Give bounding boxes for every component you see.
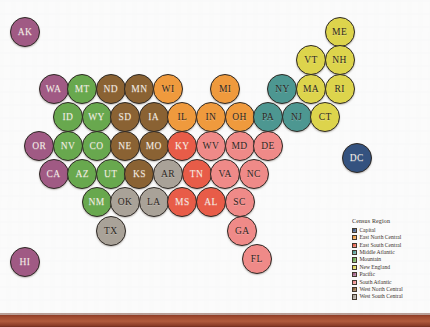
- state-bubble-mi[interactable]: MI: [210, 74, 240, 104]
- state-label: NV: [61, 141, 76, 151]
- state-bubble-hi[interactable]: HI: [10, 247, 40, 277]
- legend-entry: New England: [352, 264, 430, 271]
- state-bubble-mo[interactable]: MO: [139, 131, 169, 161]
- state-bubble-md[interactable]: MD: [225, 131, 255, 161]
- state-bubble-ar[interactable]: AR: [153, 159, 183, 189]
- state-bubble-sc[interactable]: SC: [225, 187, 255, 217]
- state-label: NJ: [291, 112, 302, 122]
- state-bubble-pa[interactable]: PA: [253, 102, 283, 132]
- legend-entry: West North Central: [352, 286, 430, 293]
- state-bubble-nh[interactable]: NH: [325, 45, 355, 75]
- state-label: FL: [251, 254, 263, 264]
- state-bubble-ga[interactable]: GA: [227, 216, 257, 246]
- state-bubble-nv[interactable]: NV: [53, 131, 83, 161]
- state-label: SC: [233, 197, 245, 207]
- state-bubble-al[interactable]: AL: [196, 187, 226, 217]
- state-label: ND: [104, 84, 119, 94]
- legend-label: East South Central: [359, 242, 401, 249]
- legend-entry: West South Central: [352, 293, 430, 300]
- state-bubble-de[interactable]: DE: [253, 131, 283, 161]
- state-label: VT: [304, 55, 317, 65]
- state-bubble-ne[interactable]: NE: [110, 131, 140, 161]
- state-bubble-sd[interactable]: SD: [110, 102, 140, 132]
- state-bubble-mt[interactable]: MT: [67, 74, 97, 104]
- state-bubble-or[interactable]: OR: [24, 131, 54, 161]
- legend-panel: Census Region CapitalEast North CentralE…: [352, 218, 430, 301]
- state-bubble-ks[interactable]: KS: [124, 159, 154, 189]
- state-bubble-az[interactable]: AZ: [67, 159, 97, 189]
- state-bubble-tn[interactable]: TN: [182, 159, 212, 189]
- state-bubble-wv[interactable]: WV: [196, 131, 226, 161]
- state-bubble-id[interactable]: ID: [53, 102, 83, 132]
- state-bubble-nj[interactable]: NJ: [282, 102, 312, 132]
- legend-label: Pacific: [359, 271, 375, 278]
- state-bubble-wa[interactable]: WA: [39, 74, 69, 104]
- state-bubble-va[interactable]: VA: [210, 159, 240, 189]
- legend-color-swatch: [352, 250, 357, 255]
- state-bubble-ma[interactable]: MA: [296, 74, 326, 104]
- state-label: TX: [104, 226, 117, 236]
- state-label: IA: [148, 112, 159, 122]
- state-label: AZ: [75, 169, 88, 179]
- state-bubble-mn[interactable]: MN: [124, 74, 154, 104]
- legend-color-swatch: [352, 294, 357, 299]
- legend-label: West North Central: [359, 286, 402, 293]
- state-bubble-ky[interactable]: KY: [167, 131, 197, 161]
- state-label: TN: [190, 169, 203, 179]
- state-label: HI: [20, 257, 31, 267]
- state-bubble-vt[interactable]: VT: [296, 45, 326, 75]
- state-bubble-wy[interactable]: WY: [82, 102, 112, 132]
- state-label: AK: [18, 27, 33, 37]
- state-label: MI: [219, 84, 231, 94]
- state-bubble-co[interactable]: CO: [82, 131, 112, 161]
- state-label: AL: [204, 197, 217, 207]
- legend-entry: East South Central: [352, 242, 430, 249]
- state-bubble-ct[interactable]: CT: [310, 102, 340, 132]
- state-bubble-ia[interactable]: IA: [139, 102, 169, 132]
- state-bubble-ok[interactable]: OK: [110, 187, 140, 217]
- legend-label: Capital: [359, 227, 375, 234]
- state-bubble-ny[interactable]: NY: [267, 74, 297, 104]
- state-label: NM: [88, 197, 104, 207]
- legend-color-swatch: [352, 243, 357, 248]
- state-bubble-ak[interactable]: AK: [10, 17, 40, 47]
- legend-label: South Atlantic: [359, 279, 391, 286]
- state-bubble-oh[interactable]: OH: [225, 102, 255, 132]
- state-label: WA: [46, 84, 62, 94]
- state-bubble-in[interactable]: IN: [196, 102, 226, 132]
- state-bubble-tx[interactable]: TX: [96, 216, 126, 246]
- state-label: VA: [219, 169, 232, 179]
- state-label: ID: [62, 112, 73, 122]
- legend-color-swatch: [352, 265, 357, 270]
- state-bubble-me[interactable]: ME: [325, 17, 355, 47]
- state-bubble-ut[interactable]: UT: [96, 159, 126, 189]
- state-label: CA: [47, 169, 61, 179]
- state-label: NH: [332, 55, 347, 65]
- state-label: IL: [177, 112, 187, 122]
- state-label: WI: [162, 84, 175, 94]
- state-bubble-ms[interactable]: MS: [167, 187, 197, 217]
- state-bubble-nc[interactable]: NC: [239, 159, 269, 189]
- state-bubble-la[interactable]: LA: [139, 187, 169, 217]
- state-bubble-fl[interactable]: FL: [242, 244, 272, 274]
- state-bubble-nd[interactable]: ND: [96, 74, 126, 104]
- state-bubble-il[interactable]: IL: [167, 102, 197, 132]
- state-bubble-wi[interactable]: WI: [153, 74, 183, 104]
- state-label: UT: [104, 169, 117, 179]
- legend-entry: Mountain: [352, 256, 430, 263]
- state-bubble-ri[interactable]: RI: [325, 74, 355, 104]
- legend-label: Mountain: [359, 256, 381, 263]
- legend-entry: Middle Atlantic: [352, 249, 430, 256]
- state-label: MD: [231, 141, 247, 151]
- state-bubble-dc[interactable]: DC: [342, 143, 372, 173]
- legend-color-swatch: [352, 272, 357, 277]
- state-label: NY: [275, 84, 290, 94]
- legend-color-swatch: [352, 287, 357, 292]
- page-bottom-edge-bar: [0, 315, 430, 327]
- state-label: AR: [161, 169, 175, 179]
- state-bubble-ca[interactable]: CA: [39, 159, 69, 189]
- state-bubble-nm[interactable]: NM: [82, 187, 112, 217]
- state-label: PA: [262, 112, 274, 122]
- legend-label: New England: [359, 264, 390, 271]
- legend-entry: South Atlantic: [352, 279, 430, 286]
